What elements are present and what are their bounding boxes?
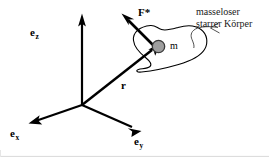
axis-label-ey: ey [134, 136, 143, 147]
axis-y [82, 105, 142, 137]
axis-x-shaft [37, 105, 82, 121]
axis-label-ez-subscript: z [35, 32, 38, 41]
vector-r [82, 44, 161, 106]
axis-label-ex: ex [10, 128, 19, 139]
axis-label-ey-subscript: y [139, 141, 143, 150]
axis-z [78, 14, 86, 106]
axis-label-ex-subscript: x [15, 133, 19, 142]
axis-y-shaft [82, 105, 132, 127]
mass-point-marker [152, 40, 164, 52]
vector-F-shaft [128, 20, 156, 48]
rigid-body-caption: masseloser starrer Körper [196, 6, 252, 29]
rigid-body-caption-line2: starrer Körper [196, 18, 252, 30]
mechanics-figure: ez ex ey r F* m masseloser starrer Körpe… [0, 0, 269, 157]
rigid-body-caption-line1: masseloser [196, 6, 252, 18]
vector-label-r: r [121, 80, 126, 91]
mass-label: m [170, 41, 178, 51]
axis-x [29, 105, 83, 125]
vector-label-f-star: F* [138, 7, 150, 18]
vector-F-star [122, 14, 157, 49]
vector-r-shaft [82, 50, 152, 105]
axis-label-ez: ez [30, 27, 38, 38]
